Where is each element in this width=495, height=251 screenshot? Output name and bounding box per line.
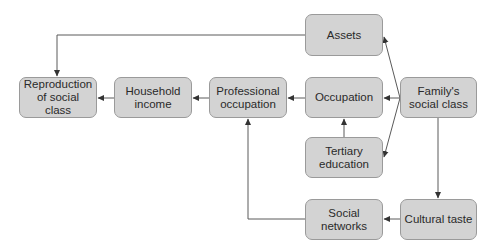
node-label: Family's social class xyxy=(404,85,473,111)
node-reproduction-of-social-class: Reproduction of social class xyxy=(19,77,97,118)
node-label: Tertiary education xyxy=(309,145,379,171)
node-occupation: Occupation xyxy=(305,77,383,118)
node-label: Household income xyxy=(116,85,191,111)
edge-social-to-professional xyxy=(248,119,305,219)
node-household-income: Household income xyxy=(114,77,192,118)
node-label: Reproduction of social class xyxy=(23,78,93,117)
node-professional-occupation: Professional occupation xyxy=(209,77,287,118)
node-label: Professional occupation xyxy=(213,85,283,111)
node-assets: Assets xyxy=(305,14,383,56)
node-label: Assets xyxy=(327,29,362,42)
node-familys-social-class: Family's social class xyxy=(400,77,477,118)
node-cultural-taste: Cultural taste xyxy=(400,199,477,240)
edge-assets-to-reproduction xyxy=(57,35,305,76)
node-label: Cultural taste xyxy=(405,213,473,226)
node-tertiary-education: Tertiary education xyxy=(305,137,383,178)
edge-family-to-assets xyxy=(384,37,400,98)
node-label: Occupation xyxy=(315,91,373,104)
node-label: Social networks xyxy=(309,207,379,233)
node-social-networks: Social networks xyxy=(305,199,383,240)
edge-family-to-tertiary xyxy=(384,98,400,157)
